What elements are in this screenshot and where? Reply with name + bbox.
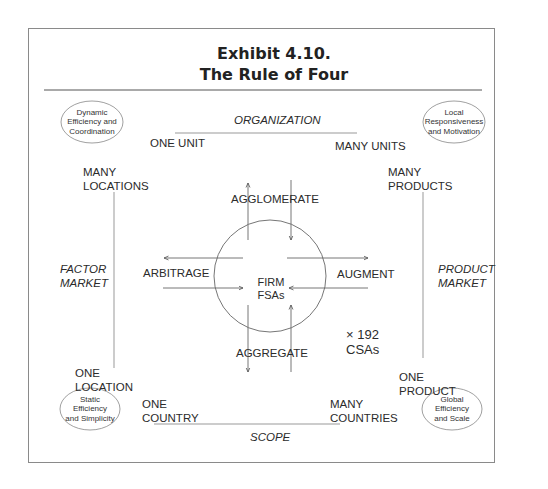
- corner-top-left-line1: Dynamic: [67, 108, 117, 118]
- pole-many-locations: MANY LOCATIONS: [83, 165, 149, 193]
- axis-label-organization: ORGANIZATION: [234, 113, 321, 127]
- csa-count: × 192 CSAs: [346, 327, 379, 357]
- axis-label-product-market-line2: MARKET: [438, 276, 495, 290]
- corner-top-right-line3: and Motivation: [425, 127, 484, 137]
- corner-dynamic-efficiency: Dynamic Efficiency and Coordination: [61, 101, 123, 143]
- corner-top-right-line2: Responsiveness: [425, 117, 484, 127]
- pole-one-country-line2: COUNTRY: [142, 411, 199, 425]
- axis-label-product-market-line1: PRODUCT: [438, 262, 495, 276]
- action-aggregate: AGGREGATE: [236, 346, 308, 360]
- pole-many-products-line2: PRODUCTS: [388, 179, 453, 193]
- corner-top-left-line2: Efficiency and: [67, 117, 117, 127]
- corner-bottom-left-line2: Efficiency: [65, 404, 114, 414]
- csa-multiplier: × 192: [346, 327, 379, 342]
- pole-many-products-line1: MANY: [388, 165, 453, 179]
- corner-static-efficiency: Static Efficiency and Simplicity: [60, 388, 120, 430]
- axis-label-factor-market: FACTOR MARKET: [60, 262, 108, 290]
- pole-many-countries-line2: COUNTRIES: [330, 411, 398, 425]
- pole-one-location-line1: ONE: [75, 366, 133, 380]
- pole-many-units: MANY UNITS: [335, 139, 406, 153]
- action-arbitrage: ARBITRAGE: [143, 266, 209, 280]
- corner-global-efficiency: Global Efficiency and Scale: [422, 388, 482, 430]
- pole-many-countries-line1: MANY: [330, 397, 398, 411]
- corner-local-responsiveness: Local Responsiveness and Motivation: [423, 101, 485, 143]
- action-augment: AUGMENT: [337, 267, 395, 281]
- corner-top-right-line1: Local: [425, 108, 484, 118]
- pole-one-unit: ONE UNIT: [150, 136, 205, 150]
- axis-label-scope: SCOPE: [250, 430, 290, 444]
- pole-one-product-line1: ONE: [399, 370, 456, 384]
- pole-many-countries: MANY COUNTRIES: [330, 397, 398, 425]
- action-agglomerate: AGGLOMERATE: [231, 192, 319, 206]
- center-firm-label: FIRM: [250, 276, 292, 289]
- corner-bottom-right-line2: Efficiency: [434, 404, 470, 414]
- center-fsas-label: FSAs: [250, 289, 292, 302]
- csa-label: CSAs: [346, 342, 379, 357]
- corner-top-left-line3: Coordination: [67, 127, 117, 137]
- pole-many-locations-line2: LOCATIONS: [83, 179, 149, 193]
- corner-bottom-right-line1: Global: [434, 395, 470, 405]
- corner-bottom-right-line3: and Scale: [434, 414, 470, 424]
- corner-bottom-left-line1: Static: [65, 395, 114, 405]
- axis-label-product-market: PRODUCT MARKET: [438, 262, 495, 290]
- pole-one-country: ONE COUNTRY: [142, 397, 199, 425]
- pole-one-country-line1: ONE: [142, 397, 199, 411]
- axis-label-factor-market-line1: FACTOR: [60, 262, 108, 276]
- pole-many-products: MANY PRODUCTS: [388, 165, 453, 193]
- axis-label-factor-market-line2: MARKET: [60, 276, 108, 290]
- corner-bottom-left-line3: and Simplicity: [65, 414, 114, 424]
- pole-many-locations-line1: MANY: [83, 165, 149, 179]
- center-firm-fsas: FIRM FSAs: [250, 276, 292, 302]
